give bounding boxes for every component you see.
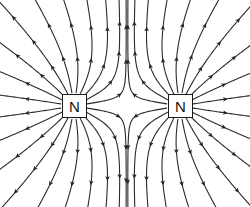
field-line-segment	[192, 84, 225, 99]
field-line-segment	[147, 179, 149, 207]
field-line-segment	[27, 83, 62, 100]
field-line-segment	[201, 43, 219, 69]
field-line-segment	[91, 151, 92, 184]
field-line-segment	[0, 0, 13, 17]
field-line-segment	[0, 129, 27, 144]
field-line-segment	[128, 117, 135, 148]
field-lines-canvas	[0, 0, 250, 207]
field-line-segment	[238, 191, 250, 207]
field-line-segment	[0, 193, 15, 207]
field-line-segment	[17, 55, 41, 75]
field-line-segment	[76, 58, 78, 92]
field-line-segment	[134, 23, 135, 53]
field-line-segment	[119, 23, 120, 53]
pole-box-right: N	[168, 94, 193, 118]
field-lines-group	[0, 0, 250, 207]
field-line-segment	[162, 27, 163, 60]
field-line-segment	[80, 118, 91, 151]
field-line-segment	[193, 99, 226, 104]
field-line-segment	[119, 177, 120, 207]
field-line-segment	[33, 41, 52, 66]
field-line-segment	[176, 119, 178, 152]
field-line-segment	[27, 112, 62, 129]
field-line-segment	[235, 40, 250, 57]
field-line-segment	[34, 145, 52, 169]
field-line-segment	[27, 99, 61, 104]
field-line-segment	[183, 0, 193, 24]
field-line-segment	[143, 81, 168, 99]
field-line-segment	[0, 157, 17, 175]
field-line-segment	[162, 149, 163, 183]
field-line-segment	[120, 61, 126, 94]
field-line-segment	[15, 169, 34, 192]
field-line-segment	[192, 112, 225, 127]
field-line-segment	[239, 0, 250, 19]
field-line-segment	[186, 68, 201, 94]
field-line-segment	[212, 57, 235, 76]
field-line-segment	[134, 138, 138, 177]
field-line-segment	[52, 67, 68, 94]
field-line-segment	[192, 25, 206, 57]
field-line-segment	[225, 70, 250, 84]
field-line-segment	[52, 118, 68, 145]
field-line-segment	[91, 27, 92, 60]
field-line-segment	[176, 152, 182, 184]
field-line-segment	[163, 118, 174, 149]
field-line-segment	[86, 184, 91, 207]
field-line-segment	[41, 116, 64, 137]
field-line-segment	[134, 177, 135, 207]
field-line-segment	[226, 95, 250, 99]
field-line-segment	[31, 0, 48, 25]
field-line-segment	[50, 153, 63, 185]
field-line-segment	[204, 184, 220, 207]
field-line-segment	[177, 24, 183, 58]
field-line-segment	[86, 112, 115, 138]
field-line-segment	[34, 184, 50, 207]
field-line-segment	[72, 152, 78, 184]
field-line-segment	[119, 117, 126, 148]
magnetic-field-diagram: N N	[0, 0, 250, 207]
field-line-segment	[134, 0, 135, 23]
field-line-segment	[134, 94, 167, 104]
field-line-segment	[190, 116, 212, 136]
field-line-segment	[106, 179, 108, 207]
field-line-segment	[119, 0, 120, 23]
field-line-segment	[202, 145, 219, 168]
field-line-segment	[193, 108, 226, 113]
field-line-segment	[182, 185, 191, 207]
field-line-segment	[163, 60, 174, 94]
field-line-segment	[27, 108, 61, 113]
field-line-segment	[80, 60, 91, 94]
pole-label-right: N	[175, 99, 186, 114]
field-line-segment	[115, 138, 119, 177]
field-line-segment	[220, 19, 239, 42]
pole-box-left: N	[62, 94, 87, 118]
field-line-segment	[191, 153, 204, 185]
field-line-segment	[104, 28, 108, 65]
field-line-segment	[135, 53, 143, 82]
field-line-segment	[0, 94, 27, 99]
field-line-segment	[176, 58, 178, 92]
field-line-segment	[13, 17, 33, 41]
field-line-segment	[225, 128, 250, 142]
field-line-segment	[235, 155, 250, 172]
field-line-segment	[147, 0, 149, 28]
field-line-segment	[86, 81, 111, 99]
field-line-segment	[205, 0, 222, 25]
field-line-segment	[63, 185, 72, 207]
field-line-segment	[0, 113, 27, 118]
field-line-segment	[111, 53, 119, 82]
field-line-segment	[147, 28, 151, 65]
field-line-segment	[61, 0, 71, 24]
field-line-segment	[76, 119, 78, 152]
field-line-segment	[104, 145, 108, 179]
field-line-segment	[87, 94, 120, 104]
field-line-segment	[147, 145, 151, 179]
field-line-segment	[128, 61, 134, 94]
field-line-segment	[0, 69, 27, 84]
field-line-segment	[0, 37, 17, 55]
field-line-segment	[17, 137, 41, 157]
field-line-segment	[186, 118, 202, 145]
field-line-segment	[212, 136, 235, 155]
field-line-segment	[105, 0, 107, 28]
